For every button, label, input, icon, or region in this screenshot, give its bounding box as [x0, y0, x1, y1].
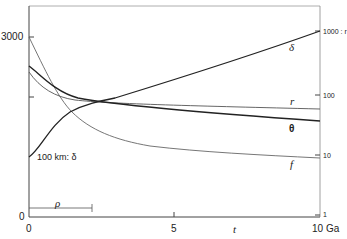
r-label-1: 1 — [323, 211, 327, 218]
r-label-10: 10 — [323, 152, 331, 159]
series-r-line — [29, 72, 320, 109]
series-delta-line — [29, 31, 320, 157]
series-f-line — [29, 37, 320, 158]
x-label-10ga: 10 Ga — [312, 224, 339, 234]
y-left-label-0: 0 — [19, 212, 25, 222]
y-left-label-3000: 3000 — [1, 32, 23, 42]
x-label-0: 0 — [26, 224, 32, 234]
x-label-5: 5 — [171, 224, 177, 234]
r-label-100: 100 — [323, 92, 335, 99]
series-delta-label: δ — [289, 42, 294, 53]
rho-label: ρ — [55, 198, 60, 209]
series-theta-label: θ — [289, 124, 294, 134]
series-f-label: f — [290, 159, 293, 170]
x-axis-variable: t — [233, 224, 236, 235]
series-r-label: r — [290, 96, 294, 107]
delta-start-annotation: 100 km: δ — [37, 153, 77, 162]
r-label-1000: 1000 : r — [323, 28, 347, 35]
